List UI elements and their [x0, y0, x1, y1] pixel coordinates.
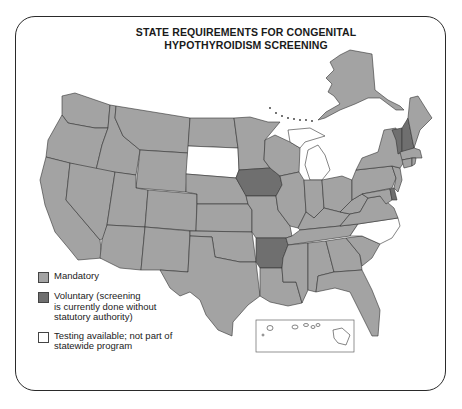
legend-item-testing-available: Testing available; not part of statewide… [38, 331, 172, 352]
voluntary-swatch-icon [38, 292, 49, 303]
state-connecticut [402, 158, 412, 168]
state-colorado [145, 190, 197, 231]
state-wyoming [136, 150, 188, 192]
mandatory-swatch-icon [38, 272, 49, 283]
state-north-dakota [188, 118, 238, 148]
legend-label-mandatory: Mandatory [54, 271, 99, 282]
state-kansas [196, 204, 252, 232]
state-rhode-island [412, 158, 416, 166]
legend-item-mandatory: Mandatory [38, 271, 172, 283]
state-arizona [100, 225, 145, 270]
testing-available-swatch-icon [38, 332, 49, 343]
legend-label-testing-available: Testing available; not part of statewide… [54, 331, 172, 352]
alaska-aleutians [269, 107, 313, 122]
legend-label-voluntary: Voluntary (screening is currently done w… [54, 291, 156, 323]
state-washington [62, 93, 110, 128]
state-new-mexico [141, 227, 190, 272]
legend: Mandatory Voluntary (screening is curren… [38, 271, 172, 360]
legend-item-voluntary: Voluntary (screening is currently done w… [38, 291, 172, 323]
state-alaska [318, 50, 404, 120]
state-south-dakota [186, 146, 239, 178]
